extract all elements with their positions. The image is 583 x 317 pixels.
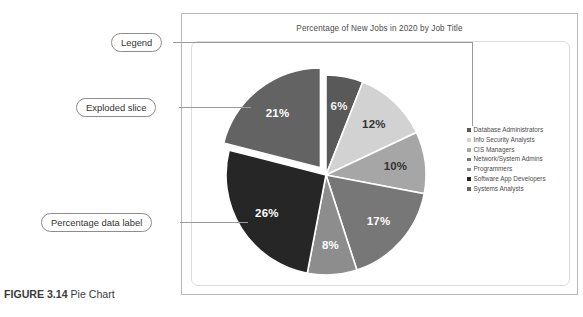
leader-line-legend-vertical bbox=[472, 42, 473, 126]
legend-swatch-icon bbox=[467, 148, 471, 152]
pie-slice-label: 21% bbox=[266, 107, 290, 119]
legend-item-label: Info Security Analysts bbox=[474, 137, 535, 143]
pie-slice-label: 10% bbox=[384, 160, 408, 172]
leader-line-percentage-data-label bbox=[180, 222, 248, 223]
callout-percentage-data-label: Percentage data label bbox=[41, 213, 152, 232]
legend-item: Network/System Admins bbox=[467, 156, 572, 162]
legend-item: Programmers bbox=[467, 166, 572, 172]
figure-caption: FIGURE 3.14 Pie Chart bbox=[4, 288, 115, 300]
legend-swatch-icon bbox=[467, 158, 471, 162]
figure-caption-label: FIGURE 3.14 bbox=[4, 288, 68, 300]
callout-legend: Legend bbox=[111, 33, 162, 52]
legend-swatch-icon bbox=[467, 177, 471, 181]
legend-swatch-icon bbox=[467, 187, 471, 191]
legend-swatch-icon bbox=[467, 138, 471, 142]
pie-slice-label: 12% bbox=[362, 118, 386, 130]
legend-item: Software App Developers bbox=[467, 176, 572, 182]
legend-swatch-icon bbox=[467, 128, 471, 132]
figure-caption-text: Pie Chart bbox=[68, 288, 115, 300]
callout-exploded-slice: Exploded slice bbox=[76, 98, 156, 117]
legend-item: Systems Analysts bbox=[467, 186, 572, 192]
legend-item-label: Software App Developers bbox=[474, 176, 546, 182]
legend-item-label: Database Administrators bbox=[474, 127, 544, 133]
pie-slice-label: 17% bbox=[367, 215, 391, 227]
legend-item: CIS Managers bbox=[467, 147, 572, 153]
legend-item: Database Administrators bbox=[467, 127, 572, 133]
chart-frame: Percentage of New Jobs in 2020 by Job Ti… bbox=[181, 13, 578, 295]
legend-swatch-icon bbox=[467, 168, 471, 172]
legend-item-label: Programmers bbox=[474, 166, 513, 172]
leader-line-exploded-slice bbox=[179, 107, 251, 108]
pie-slice-label: 8% bbox=[322, 239, 339, 251]
pie-slice-label: 6% bbox=[331, 100, 348, 112]
leader-line-legend bbox=[173, 42, 472, 43]
legend-item-label: Systems Analysts bbox=[474, 186, 524, 192]
legend-item: Info Security Analysts bbox=[467, 137, 572, 143]
chart-legend: Database AdministratorsInfo Security Ana… bbox=[467, 127, 572, 192]
legend-item-label: CIS Managers bbox=[474, 147, 515, 153]
pie-slice-label: 26% bbox=[255, 207, 279, 219]
legend-item-label: Network/System Admins bbox=[474, 156, 543, 162]
